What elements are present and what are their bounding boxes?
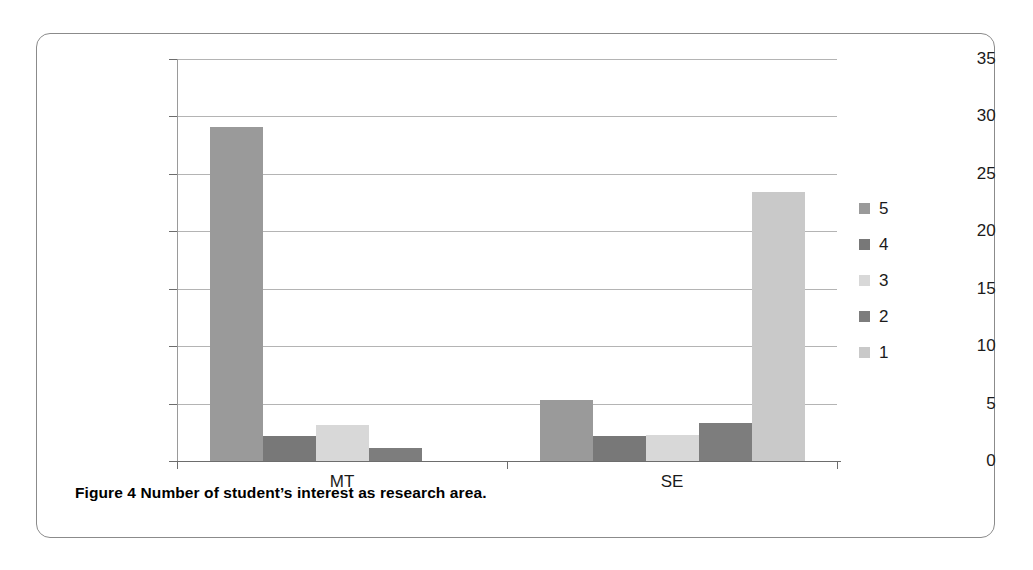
legend-label: 1: [879, 344, 888, 361]
y-axis-tick-label: 0: [874, 451, 996, 471]
legend-swatch-icon: [859, 275, 870, 286]
legend-item-1[interactable]: 1: [859, 334, 969, 370]
chart-legend: 54321: [859, 190, 969, 370]
bar-se-series-4: [593, 436, 646, 461]
y-axis-tick-label: 25: [874, 164, 996, 184]
y-axis-tick-label: 35: [874, 49, 996, 69]
legend-swatch-icon: [859, 347, 870, 358]
legend-label: 3: [879, 272, 888, 289]
x-axis-label-se: SE: [612, 472, 732, 492]
x-axis-tick: [507, 461, 508, 469]
x-axis-line: [169, 461, 841, 462]
legend-label: 5: [879, 200, 888, 217]
y-axis-tick-label: 5: [874, 394, 996, 414]
legend-item-2[interactable]: 2: [859, 298, 969, 334]
legend-item-5[interactable]: 5: [859, 190, 969, 226]
figure-caption: Figure 4 Number of student’s interest as…: [75, 484, 487, 502]
bar-mt-series-2: [369, 448, 422, 461]
bar-mt-series-3: [316, 425, 369, 461]
x-axis-tick: [837, 461, 838, 469]
chart-plot-area: 05101520253035 MTSE: [37, 34, 996, 474]
bar-se-series-2: [699, 423, 752, 461]
bar-mt-series-5: [210, 127, 263, 461]
legend-item-3[interactable]: 3: [859, 262, 969, 298]
legend-swatch-icon: [859, 203, 870, 214]
figure-frame: 05101520253035 MTSE 54321 Figure 4 Numbe…: [36, 33, 995, 538]
bar-mt-series-4: [263, 436, 316, 461]
legend-label: 4: [879, 236, 888, 253]
legend-swatch-icon: [859, 239, 870, 250]
bar-se-series-3: [646, 435, 699, 461]
bar-se-series-1: [752, 192, 805, 461]
legend-label: 2: [879, 308, 888, 325]
caption-text: Number of student’s interest as research…: [141, 484, 487, 501]
caption-label: Figure 4: [75, 484, 136, 501]
legend-swatch-icon: [859, 311, 870, 322]
x-axis-tick: [177, 461, 178, 469]
bar-se-series-5: [540, 400, 593, 461]
y-axis-tick-label: 30: [874, 106, 996, 126]
legend-item-4[interactable]: 4: [859, 226, 969, 262]
bars-layer: [177, 59, 837, 461]
